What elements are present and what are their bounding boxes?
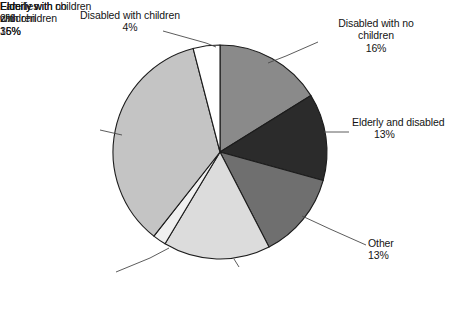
leader-line-elderly-with-no-children: [234, 259, 239, 267]
callout-elderly-and-disabled: Elderly and disabled 13%: [352, 116, 464, 141]
callout-label: Other: [368, 237, 448, 249]
pie-chart-figure: Disabled with children 4% Disabled with …: [0, 0, 464, 324]
callout-label-line2: children: [318, 29, 434, 41]
callout-other: Other 13%: [368, 237, 448, 262]
callout-label-line1: Families: [0, 0, 57, 12]
leader-line-elderly-with-children: [116, 248, 169, 272]
callout-families-with-children: Families with children 35%: [0, 0, 57, 37]
callout-percent: 13%: [368, 249, 448, 261]
callout-percent: 35%: [0, 25, 57, 37]
leader-line-disabled-with-no-children: [268, 42, 318, 63]
callout-disabled-with-no-children: Disabled with no children 16%: [318, 17, 434, 54]
callout-percent: 16%: [318, 42, 434, 54]
callout-label: Elderly and disabled: [352, 116, 464, 128]
callout-percent: 13%: [352, 128, 464, 140]
pie-slices-group: [113, 45, 327, 259]
callout-label-line1: Disabled with no: [318, 17, 434, 29]
leader-line-other: [302, 216, 366, 245]
callout-label-line2: with children: [0, 12, 57, 24]
